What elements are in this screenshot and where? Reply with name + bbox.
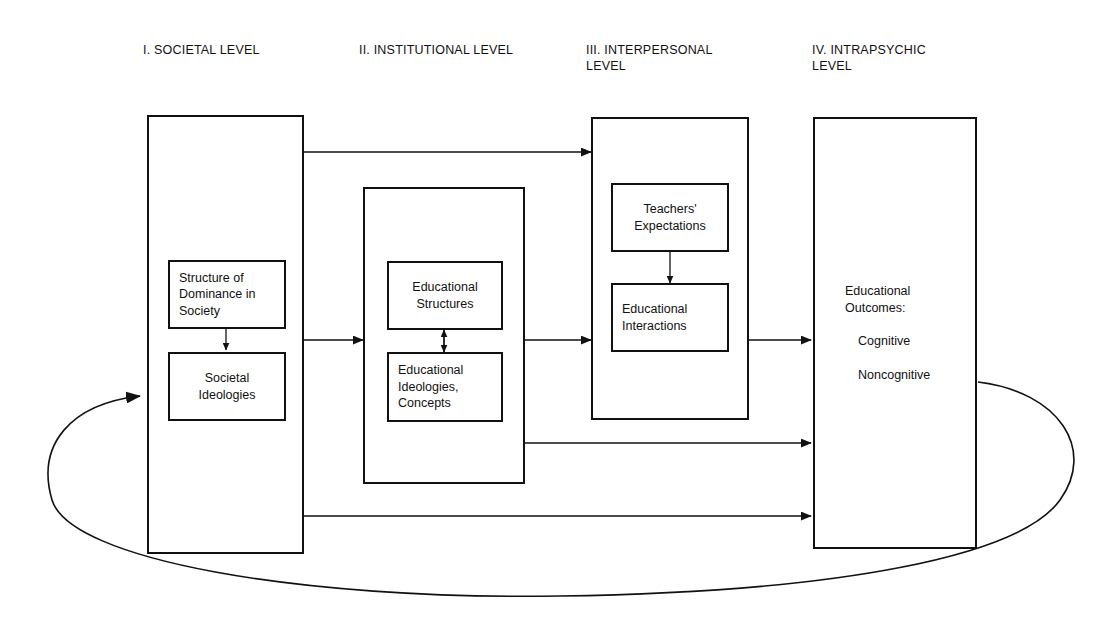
outer-box-interpersonal-level [591, 117, 749, 420]
column-title-institutional-level: II. INSTITUTIONAL LEVEL [359, 42, 513, 58]
diagram-canvas: I. SOCIETAL LEVEL II. INSTITUTIONAL LEVE… [0, 0, 1118, 643]
box-educational-structures: Educational Structures [387, 261, 503, 330]
outcomes-item-cognitive: Cognitive [858, 333, 910, 350]
outer-box-institutional-level [363, 187, 525, 484]
column-title-societal-level: I. SOCIETAL LEVEL [143, 42, 260, 58]
outer-box-societal-level [147, 115, 304, 554]
outcomes-heading: Educational Outcomes: [845, 283, 910, 316]
box-educational-ideologies-concepts: Educational Ideologies, Concepts [387, 352, 503, 422]
box-teachers-expectations: Teachers' Expectations [611, 183, 729, 252]
column-title-intrapsychic-level: IV. INTRAPSYCHIC LEVEL [812, 42, 926, 74]
box-educational-interactions: Educational Interactions [611, 283, 729, 352]
outcomes-item-noncognitive: Noncognitive [858, 367, 930, 384]
box-societal-ideologies: Societal Ideologies [168, 352, 286, 421]
box-structure-of-dominance: Structure of Dominance in Society [168, 260, 286, 329]
column-title-interpersonal-level: III. INTERPERSONAL LEVEL [586, 42, 713, 74]
